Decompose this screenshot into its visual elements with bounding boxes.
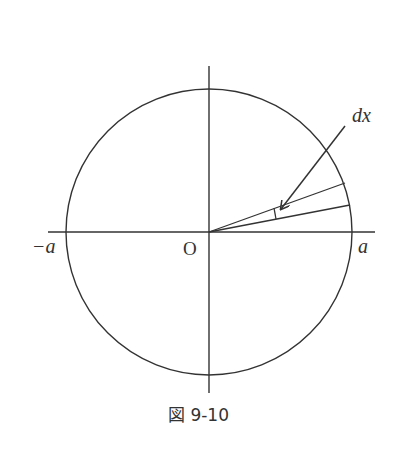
sector-ray-upper: [209, 183, 345, 232]
label-origin: O: [183, 238, 197, 259]
label-pos-a: a: [358, 235, 368, 257]
dx-arrow: [281, 126, 345, 209]
dx-mark: [274, 208, 276, 219]
figure-diagram: dx −a O a: [0, 0, 397, 469]
label-dx: dx: [352, 104, 371, 126]
label-neg-a: −a: [32, 235, 56, 257]
figure-caption: 図 9-10: [0, 401, 397, 426]
sector-ray-lower: [209, 205, 350, 232]
